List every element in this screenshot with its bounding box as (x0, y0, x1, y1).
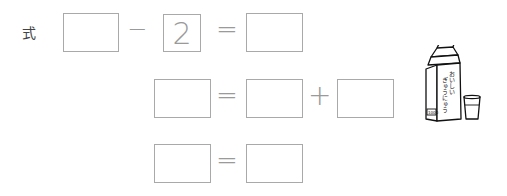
minus-sign: − (126, 15, 148, 43)
equals-sign: = (216, 145, 238, 175)
formula-label: 式 (22, 22, 36, 42)
answer-box-4[interactable] (246, 79, 303, 118)
answer-box-3[interactable] (154, 79, 211, 118)
milk-carton-illustration: 1000 おいしい ぎゅうにゅう (425, 45, 485, 125)
answer-box-7[interactable] (246, 144, 303, 183)
answer-box-1[interactable] (63, 13, 119, 52)
equals-sign: = (216, 80, 238, 110)
milk-carton-icon: 1000 おいしい ぎゅうにゅう (425, 45, 485, 125)
svg-text:1000: 1000 (428, 110, 439, 115)
plus-sign: + (308, 79, 330, 112)
given-number-box: 2 (163, 14, 201, 52)
svg-text:ぎゅうにゅう: ぎゅうにゅう (442, 76, 449, 113)
answer-box-2[interactable] (246, 13, 303, 52)
svg-text:おいしい: おいしい (449, 71, 456, 95)
answer-box-6[interactable] (154, 144, 211, 183)
equals-sign: = (216, 14, 238, 44)
answer-box-5[interactable] (337, 79, 394, 118)
